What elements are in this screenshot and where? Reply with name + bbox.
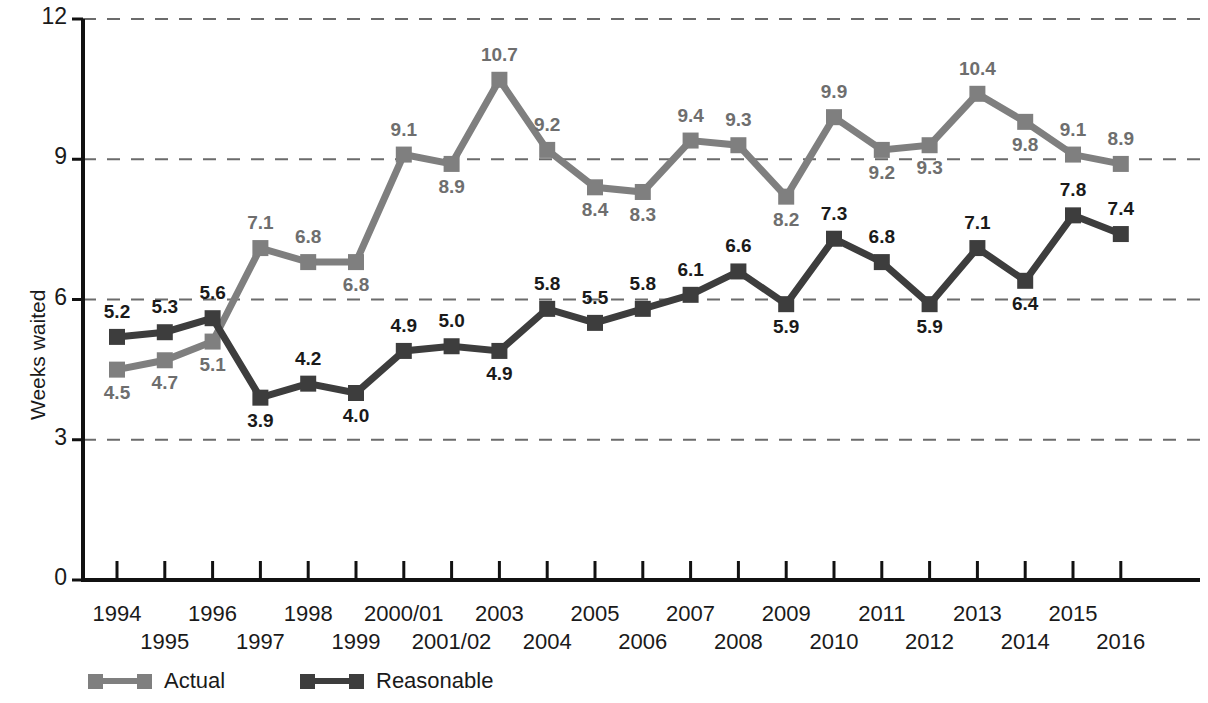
data-point-marker [683,133,699,149]
data-point-marker [252,240,268,256]
data-label: 7.1 [964,212,990,234]
data-point-marker [491,343,507,359]
data-point-marker [252,390,268,406]
data-label: 7.1 [247,212,273,234]
data-point-marker [205,310,221,326]
data-label: 4.0 [343,405,369,427]
data-label: 9.3 [916,157,942,179]
data-point-marker [1017,273,1033,289]
data-label: 8.3 [630,204,656,226]
data-point-marker [683,287,699,303]
data-point-marker [826,109,842,125]
data-point-marker [396,343,412,359]
legend-marker-icon [88,674,103,689]
data-label: 7.3 [821,203,847,225]
legend-marker-icon [349,674,364,689]
data-label: 5.0 [438,310,464,332]
legend-marker-icon [137,674,152,689]
legend-line-icon [103,678,137,684]
data-point-marker [109,362,125,378]
data-label: 9.8 [1012,134,1038,156]
data-label: 5.8 [630,273,656,295]
legend-item-reasonable[interactable]: Reasonable [300,668,493,694]
data-point-marker [587,179,603,195]
data-point-marker [778,296,794,312]
data-point-marker [1065,147,1081,163]
data-point-marker [1113,156,1129,172]
data-point-marker [348,254,364,270]
legend-item-actual[interactable]: Actual [88,668,225,694]
data-point-marker [1113,226,1129,242]
data-label: 6.1 [677,259,703,281]
data-label: 9.2 [869,162,895,184]
data-label: 6.4 [1012,293,1038,315]
data-point-marker [730,137,746,153]
data-label: 4.9 [486,363,512,385]
data-label: 6.8 [295,226,321,248]
data-label: 5.3 [152,296,178,318]
data-point-marker [109,329,125,345]
data-label: 7.4 [1108,198,1134,220]
plot-area [0,0,1208,703]
data-point-marker [205,334,221,350]
data-point-marker [539,301,555,317]
data-point-marker [300,254,316,270]
data-label: 9.3 [725,109,751,131]
data-label: 5.6 [199,282,225,304]
legend-line-icon [315,678,349,684]
data-label: 5.9 [916,316,942,338]
data-point-marker [922,296,938,312]
data-point-marker [539,142,555,158]
data-label: 8.4 [582,199,608,221]
data-label: 10.7 [481,44,518,66]
legend-label: Reasonable [376,668,493,694]
data-label: 9.9 [821,81,847,103]
data-label: 8.9 [1108,128,1134,150]
data-label: 9.4 [677,105,703,127]
data-point-marker [922,137,938,153]
data-label: 8.2 [773,209,799,231]
data-point-marker [491,72,507,88]
data-label: 6.8 [869,226,895,248]
data-label: 5.8 [534,273,560,295]
data-label: 5.9 [773,316,799,338]
data-label: 4.5 [104,382,130,404]
data-label: 5.1 [199,354,225,376]
data-point-marker [157,324,173,340]
data-point-marker [300,376,316,392]
data-point-marker [778,189,794,205]
data-point-marker [396,147,412,163]
data-label: 3.9 [247,410,273,432]
data-label: 4.7 [152,372,178,394]
data-point-marker [730,263,746,279]
data-point-marker [1017,114,1033,130]
data-label: 5.2 [104,301,130,323]
data-point-marker [157,352,173,368]
data-point-marker [348,385,364,401]
data-label: 4.9 [391,315,417,337]
data-label: 8.9 [438,176,464,198]
data-label: 9.1 [1060,119,1086,141]
data-label: 6.8 [343,274,369,296]
data-point-marker [826,231,842,247]
legend-marker-icon [300,674,315,689]
data-label: 5.5 [582,287,608,309]
data-point-marker [635,301,651,317]
data-point-marker [444,338,460,354]
data-label: 9.2 [534,114,560,136]
data-label: 9.1 [391,119,417,141]
data-point-marker [1065,207,1081,223]
legend-label: Actual [164,668,225,694]
data-point-marker [587,315,603,331]
data-point-marker [874,254,890,270]
data-label: 6.6 [725,235,751,257]
data-label: 4.2 [295,348,321,370]
data-point-marker [969,86,985,102]
data-point-marker [874,142,890,158]
data-point-marker [444,156,460,172]
data-point-marker [635,184,651,200]
data-label: 10.4 [959,58,996,80]
data-label: 7.8 [1060,179,1086,201]
line-chart: Weeks waited 036912 19941995199619971998… [0,0,1208,703]
data-point-marker [969,240,985,256]
